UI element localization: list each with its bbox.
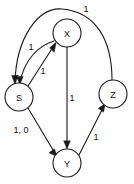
node-S[interactable]: S bbox=[5, 83, 33, 111]
node-Z-label: Z bbox=[110, 90, 116, 100]
node-Y[interactable]: Y bbox=[53, 149, 81, 177]
node-X[interactable]: X bbox=[53, 19, 81, 47]
edge-y-to-z: 1 bbox=[79, 104, 105, 155]
edge-z-to-s-weight: 1 bbox=[83, 4, 88, 14]
edge-s-to-y-path bbox=[28, 108, 56, 155]
edge-x-to-y-weight: 1 bbox=[69, 93, 74, 103]
graph-diagram: 1 1 1 1 1, 0 1 bbox=[0, 0, 134, 184]
edge-y-to-z-path bbox=[79, 106, 104, 155]
edge-x-to-y-arrowhead bbox=[64, 141, 71, 149]
edge-x-to-s-path bbox=[20, 41, 54, 83]
edge-s-to-y: 1, 0 bbox=[13, 108, 57, 157]
edge-x-to-y: 1 bbox=[64, 47, 75, 149]
node-Z[interactable]: Z bbox=[99, 80, 127, 108]
edge-x-to-s-weight: 1 bbox=[28, 42, 33, 52]
edge-x-to-s: 1 bbox=[16, 41, 54, 85]
node-Y-label: Y bbox=[64, 159, 70, 169]
edge-s-to-x-weight: 1 bbox=[40, 66, 45, 76]
graph-canvas: 1 1 1 1 1, 0 1 bbox=[0, 0, 134, 184]
edge-y-to-z-weight: 1 bbox=[93, 132, 98, 142]
node-X-label: X bbox=[64, 29, 70, 39]
edge-s-to-y-weight: 1, 0 bbox=[13, 125, 28, 135]
node-S-label: S bbox=[16, 93, 22, 103]
